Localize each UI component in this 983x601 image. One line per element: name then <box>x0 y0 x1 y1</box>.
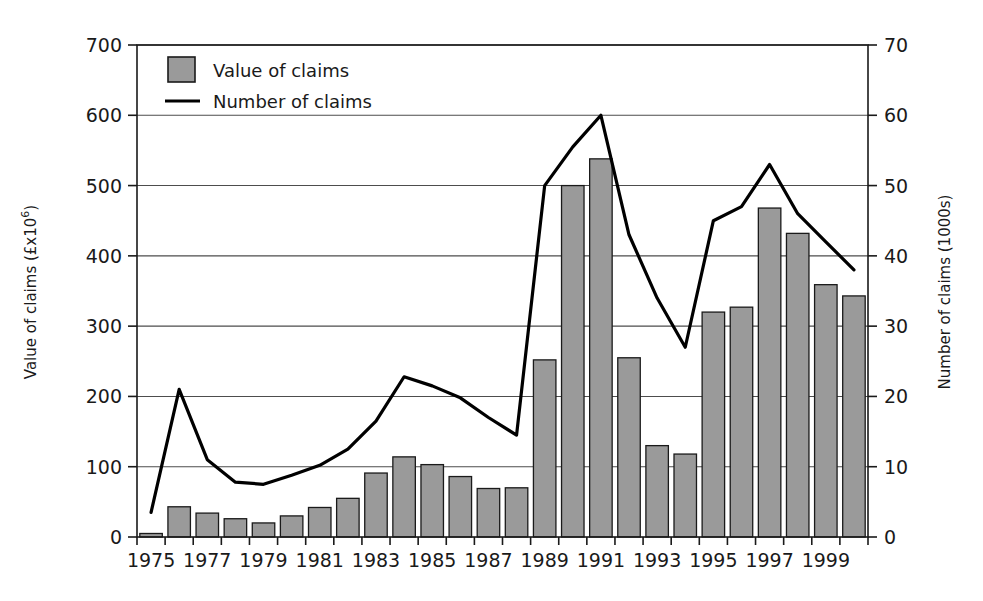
y-tick-label-right: 30 <box>884 315 908 337</box>
bar <box>562 186 584 537</box>
bar <box>393 457 415 537</box>
y-tick-label-left: 300 <box>86 315 122 337</box>
bar <box>449 477 471 537</box>
x-tick-label: 1987 <box>464 549 512 571</box>
bar <box>280 516 302 537</box>
legend-label-number-of-claims: Number of claims <box>213 91 372 112</box>
y-tick-label-right: 70 <box>884 34 908 56</box>
bar <box>365 473 387 537</box>
bar <box>505 488 527 537</box>
bar <box>730 307 752 537</box>
combo-chart: 0100200300400500600700 010203040506070 1… <box>0 0 983 601</box>
bar <box>674 454 696 537</box>
x-tick-label: 1975 <box>127 549 175 571</box>
bar <box>337 498 359 537</box>
bar <box>590 159 612 537</box>
y-tick-label-left: 500 <box>86 175 122 197</box>
x-tick-label: 1985 <box>408 549 456 571</box>
bar <box>477 489 499 538</box>
bar <box>252 523 274 537</box>
bar <box>421 465 443 537</box>
x-tick-label: 1979 <box>239 549 287 571</box>
y-tick-label-right: 10 <box>884 456 908 478</box>
x-tick-label: 1999 <box>802 549 850 571</box>
bar <box>196 513 218 537</box>
legend-swatch-value-of-claims <box>168 57 195 82</box>
y-tick-label-right: 40 <box>884 245 908 267</box>
y-tick-label-right: 0 <box>884 526 896 548</box>
x-tick-label: 1989 <box>520 549 568 571</box>
y-tick-label-right: 50 <box>884 175 908 197</box>
y-tick-label-left: 100 <box>86 456 122 478</box>
bar <box>309 507 331 537</box>
chart-container: 0100200300400500600700 010203040506070 1… <box>0 0 983 601</box>
bar <box>533 360 555 537</box>
y-tick-label-left: 0 <box>110 526 122 548</box>
y-tick-label-right: 20 <box>884 385 908 407</box>
y-axis-right-title: Number of claims (1000s) <box>936 195 954 390</box>
y-tick-label-left: 200 <box>86 385 122 407</box>
y-tick-label-right: 60 <box>884 104 908 126</box>
bar <box>786 233 808 537</box>
x-tick-label: 1993 <box>633 549 681 571</box>
x-tick-label: 1991 <box>577 549 625 571</box>
x-tick-label: 1981 <box>296 549 344 571</box>
x-tick-label: 1997 <box>745 549 793 571</box>
x-tick-label: 1977 <box>183 549 231 571</box>
y-tick-label-left: 400 <box>86 245 122 267</box>
bar <box>618 358 640 537</box>
bar <box>646 446 668 537</box>
bar <box>843 296 865 537</box>
bar <box>758 208 780 537</box>
bar <box>815 285 837 537</box>
x-tick-label: 1983 <box>352 549 400 571</box>
bar <box>702 312 724 537</box>
y-tick-label-left: 700 <box>86 34 122 56</box>
y-axis-left-title: Value of claims (£x106) <box>19 205 40 379</box>
x-tick-label: 1995 <box>689 549 737 571</box>
y-tick-label-left: 600 <box>86 104 122 126</box>
bar <box>224 519 246 537</box>
legend-label-value-of-claims: Value of claims <box>213 60 349 81</box>
bar <box>168 507 190 537</box>
